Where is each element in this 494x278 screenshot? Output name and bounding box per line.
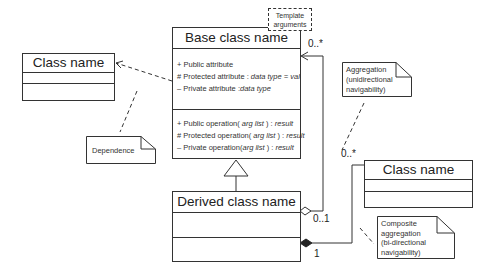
base-class-operations: + Public operation( arg list ) : result … xyxy=(173,110,300,154)
attribute-private: – Private attribute :data type xyxy=(177,83,300,95)
base-class-box[interactable]: Base class name + Public attribute # Pro… xyxy=(172,27,301,159)
right-class-box[interactable]: Class name xyxy=(364,160,473,208)
operation-private: – Private operation(arg list ) : result xyxy=(177,142,300,154)
multiplicity-composite-source: 1 xyxy=(314,248,320,259)
template-arguments-box: Template arguments xyxy=(268,8,312,31)
attribute-public: + Public attribute xyxy=(177,59,300,71)
dependence-note: Dependence xyxy=(86,136,156,164)
operation-public: + Public operation( arg list ) : result xyxy=(177,118,300,130)
left-class-attributes xyxy=(23,73,114,84)
derived-class-box[interactable]: Derived class name xyxy=(172,191,301,262)
template-arguments-label: Template arguments xyxy=(273,12,306,28)
composite-note: Composite aggregation (bi-directional na… xyxy=(377,216,455,259)
base-class-name: Base class name xyxy=(173,28,300,49)
right-class-name: Class name xyxy=(365,161,472,180)
left-class-operations xyxy=(23,84,114,101)
right-class-attributes xyxy=(365,180,472,192)
left-class-name: Class name xyxy=(23,54,114,73)
derived-class-name: Derived class name xyxy=(173,192,300,213)
multiplicity-aggregation-source: 0..1 xyxy=(313,213,330,224)
operation-protected: # Protected operation( arg list ) : resu… xyxy=(177,130,300,142)
base-class-attributes: + Public attribute # Protected attribute… xyxy=(173,49,300,110)
aggregation-note: Aggregation (unidirectional navigability… xyxy=(342,62,412,97)
left-class-box[interactable]: Class name xyxy=(22,53,115,101)
derived-class-attributes xyxy=(173,213,300,238)
multiplicity-composite-target: 0..* xyxy=(341,148,356,159)
dependence-label: Dependence xyxy=(92,146,135,156)
attribute-protected: # Protected attribute : data type = val xyxy=(177,71,300,83)
composite-label: Composite aggregation (bi-directional na… xyxy=(381,219,426,257)
multiplicity-aggregation-target: 0..* xyxy=(308,38,323,49)
aggregation-label: Aggregation (unidirectional navigability… xyxy=(346,65,393,95)
